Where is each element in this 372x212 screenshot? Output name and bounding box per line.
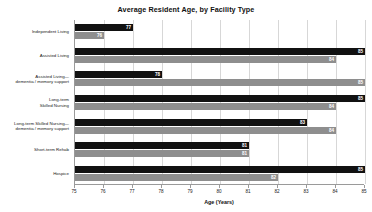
bar: 81 <box>75 150 249 157</box>
x-tick-mark <box>74 185 75 188</box>
bar-group: 8384 <box>75 119 364 134</box>
bar-group: 8582 <box>75 166 364 181</box>
x-tick-mark <box>306 185 307 188</box>
x-tick-label: 81 <box>245 189 250 194</box>
bar: 84 <box>75 103 336 110</box>
y-category-label: Long-term Skilled Nursing— dementia / me… <box>14 121 69 131</box>
bar: 84 <box>75 127 336 134</box>
y-category-label: Hospice <box>53 171 69 176</box>
x-tick-mark <box>161 185 162 188</box>
bar: 82 <box>75 174 278 181</box>
bar: 77 <box>75 24 133 31</box>
bar-value-label: 85 <box>358 48 363 55</box>
bar-value-label: 85 <box>358 166 363 173</box>
bar-value-label: 84 <box>329 56 334 63</box>
bar-value-label: 84 <box>329 127 334 134</box>
bar: 85 <box>75 79 365 86</box>
bar-value-label: 82 <box>271 174 276 181</box>
x-tick-mark <box>103 185 104 188</box>
bar-value-label: 77 <box>126 24 131 31</box>
x-tick-label: 79 <box>187 189 192 194</box>
y-category-label: Long-term Skilled Nursing <box>40 97 69 107</box>
bar: 85 <box>75 95 365 102</box>
bar-value-label: 84 <box>329 103 334 110</box>
bar: 78 <box>75 71 162 78</box>
bar-series-group: 7776858478858584838481818582 <box>75 20 364 184</box>
y-category-label: Assisted Living <box>40 53 69 58</box>
bar: 85 <box>75 48 365 55</box>
bar-value-label: 83 <box>300 119 305 126</box>
x-tick-label: 82 <box>274 189 279 194</box>
bar-group: 7776 <box>75 24 364 39</box>
x-axis-label: Age (Years) <box>74 199 364 205</box>
bar: 83 <box>75 119 307 126</box>
x-tick-mark <box>364 185 365 188</box>
bar-group: 8181 <box>75 142 364 157</box>
bar: 76 <box>75 32 104 39</box>
chart-title: Average Resident Age, by Facility Type <box>0 5 372 14</box>
y-category-label: Independent Living <box>32 29 69 34</box>
bar-value-label: 78 <box>155 71 160 78</box>
x-tick-mark <box>277 185 278 188</box>
y-category-label: Short-term Rehab <box>34 147 69 152</box>
bar-group: 7885 <box>75 71 364 86</box>
plot-area: 7776858478858584838481818582 <box>74 20 364 185</box>
x-tick-mark <box>335 185 336 188</box>
x-tick-mark <box>132 185 133 188</box>
gridline <box>365 20 366 184</box>
x-tick-mark <box>248 185 249 188</box>
bar-value-label: 81 <box>242 150 247 157</box>
x-tick-label: 75 <box>71 189 76 194</box>
x-tick-label: 85 <box>361 189 366 194</box>
chart-container: Average Resident Age, by Facility Type I… <box>0 0 372 212</box>
bar: 81 <box>75 142 249 149</box>
bar-group: 8584 <box>75 48 364 63</box>
y-category-label: Assisted Living— dementia / memory suppo… <box>16 74 69 84</box>
x-tick-mark <box>219 185 220 188</box>
bar-value-label: 85 <box>358 95 363 102</box>
x-tick-label: 84 <box>332 189 337 194</box>
bar-value-label: 85 <box>358 79 363 86</box>
x-tick-label: 80 <box>216 189 221 194</box>
bar-value-label: 76 <box>97 32 102 39</box>
bar-value-label: 81 <box>242 142 247 149</box>
x-tick-mark <box>190 185 191 188</box>
bar: 85 <box>75 166 365 173</box>
x-tick-label: 78 <box>158 189 163 194</box>
bar: 84 <box>75 56 336 63</box>
x-tick-label: 83 <box>303 189 308 194</box>
x-tick-label: 77 <box>129 189 134 194</box>
x-axis-ticks: 7576777879808182838485 <box>74 185 364 199</box>
x-tick-label: 76 <box>100 189 105 194</box>
bar-group: 8584 <box>75 95 364 110</box>
y-axis-category-labels: Independent LivingAssisted LivingAssiste… <box>0 20 72 185</box>
